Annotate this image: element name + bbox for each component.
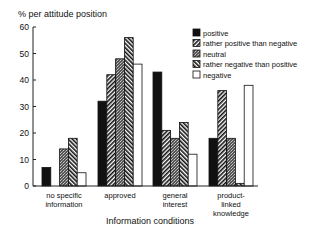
legend-label: negative: [203, 71, 231, 80]
bar-neutral: [171, 138, 180, 186]
y-tick-label: 0: [24, 181, 29, 191]
y-tick-label: 20: [20, 128, 30, 138]
legend-item: neutral: [193, 50, 226, 59]
bar-positive: [153, 72, 162, 186]
y-tick-label: 50: [20, 49, 30, 59]
bar-rather-positive-than-negative: [107, 75, 116, 186]
legend-swatch: [193, 61, 200, 68]
bar-neutral: [60, 149, 69, 186]
x-category-label: approved: [104, 191, 135, 200]
legend-item: rather negative than positive: [193, 60, 297, 69]
legend-swatch: [193, 29, 200, 36]
bar-rather-positive-than-negative: [162, 130, 171, 186]
legend-swatch: [193, 40, 200, 47]
legend-label: neutral: [203, 50, 226, 59]
y-tick-label: 40: [20, 75, 30, 85]
bar-group: [42, 138, 86, 186]
legend-item: negative: [193, 71, 231, 80]
x-category-label: product-linkedknowledge: [213, 191, 249, 218]
x-category-label-line: general: [162, 191, 187, 200]
legend-label: positive: [203, 29, 228, 38]
bar-neutral: [116, 59, 125, 186]
legend: positiverather positive than negativeneu…: [193, 29, 297, 80]
x-category-label-line: product-: [217, 191, 245, 200]
bar-positive: [209, 138, 218, 186]
x-axis-title: Information conditions: [106, 216, 195, 226]
bar-positive: [42, 167, 51, 186]
x-category-label-line: approved: [104, 191, 135, 200]
bar-positive: [98, 101, 107, 186]
bar-group: [209, 85, 253, 186]
y-axis-title: % per attitude position: [18, 9, 107, 19]
x-category-label: generalinterest: [162, 191, 188, 209]
bar-negative: [188, 154, 197, 186]
y-tick-label: 30: [20, 102, 30, 112]
bar-group: [153, 72, 197, 186]
legend-item: positive: [193, 29, 228, 38]
legend-swatch: [193, 50, 200, 57]
bar-negative: [77, 173, 86, 186]
x-category-label-line: interest: [163, 200, 189, 209]
bar-neutral: [227, 138, 236, 186]
bar-rather-negative-than-positive: [68, 138, 77, 186]
x-axis: no specificinformationapprovedgeneralint…: [33, 186, 258, 218]
x-category-label-line: information: [45, 200, 82, 209]
x-category-label-line: linked: [221, 200, 241, 209]
y-tick-label: 10: [20, 155, 30, 165]
legend-swatch: [193, 71, 200, 78]
bar-group: [98, 38, 142, 186]
x-category-label: no specificinformation: [45, 191, 82, 209]
y-tick-label: 60: [20, 22, 30, 32]
y-axis: 0102030405060: [20, 22, 36, 191]
bar-negative: [133, 64, 142, 186]
legend-label: rather negative than positive: [203, 60, 297, 69]
bar-rather-negative-than-positive: [179, 122, 188, 186]
x-category-label-line: no specific: [46, 191, 82, 200]
legend-item: rather positive than negative: [193, 39, 297, 48]
grouped-bar-chart: % per attitude position 0102030405060 no…: [0, 0, 317, 232]
bar-negative: [244, 85, 253, 186]
bar-rather-positive-than-negative: [218, 91, 227, 186]
x-category-label-line: knowledge: [213, 209, 249, 218]
legend-label: rather positive than negative: [203, 39, 297, 48]
bar-rather-negative-than-positive: [124, 38, 133, 186]
